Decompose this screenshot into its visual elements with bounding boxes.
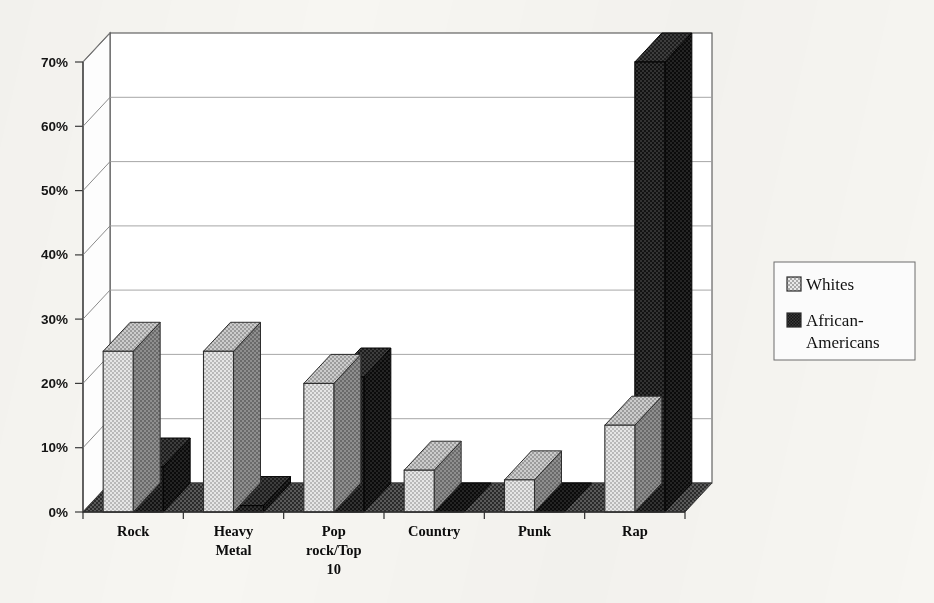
y-tick-label-0: 0% (48, 505, 68, 520)
y-tick-label-70: 70% (41, 55, 68, 70)
x-axis-label-1-line1: Heavy (214, 523, 254, 539)
bar-whites-heavy (204, 322, 261, 512)
chart-canvas: 0% 10% 20% 30% 40% 50% 60% 70% RockHeavy… (0, 0, 934, 603)
y-tick-label-20: 20% (41, 376, 68, 391)
y-tick-label-50: 50% (41, 183, 68, 198)
x-axis-label-2-line1: Pop (322, 523, 346, 539)
x-axis-label-4: Punk (518, 523, 552, 539)
y-tick-label-10: 10% (41, 440, 68, 455)
legend: Whites African- Americans (774, 262, 915, 360)
x-axis-label-2-line2: rock/Top (306, 542, 362, 558)
legend-label-whites: Whites (806, 275, 854, 294)
y-tick-label-30: 30% (41, 312, 68, 327)
bar-whites-pop (304, 354, 361, 512)
legend-swatch-whites (787, 277, 801, 291)
legend-swatch-african-americans (787, 313, 801, 327)
legend-label-african-americans-line2: Americans (806, 333, 880, 352)
x-axis-label-0: Rock (117, 523, 150, 539)
y-tick-label-40: 40% (41, 247, 68, 262)
x-axis-label-5: Rap (622, 523, 648, 539)
legend-label-african-americans-line1: African- (806, 311, 864, 330)
x-axis-labels: RockHeavyMetalPoprock/Top10CountryPunkRa… (117, 523, 648, 577)
bar-chart: 0% 10% 20% 30% 40% 50% 60% 70% RockHeavy… (0, 0, 934, 603)
x-axis: RockHeavyMetalPoprock/Top10CountryPunkRa… (83, 512, 685, 577)
y-tick-label-60: 60% (41, 119, 68, 134)
x-axis-label-1-line2: Metal (215, 542, 251, 558)
bar-whites-rock (103, 322, 160, 512)
x-axis-label-2-line3: 10 (327, 561, 342, 577)
x-axis-label-3: Country (408, 523, 461, 539)
